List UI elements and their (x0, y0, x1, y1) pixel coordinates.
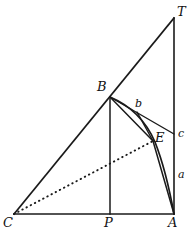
segment-hypotenuse-CT (14, 18, 174, 214)
vertex-label-P: P (104, 216, 113, 229)
figure-canvas (0, 0, 194, 235)
vertex-label-E: E (155, 131, 165, 144)
segment-label-b: b (135, 98, 142, 109)
vertex-label-T: T (177, 5, 186, 18)
segment-label-a: a (178, 169, 185, 180)
vertex-label-C: C (3, 216, 13, 229)
vertex-label-A: A (168, 216, 177, 229)
segment-label-c: c (178, 128, 184, 139)
geometry-figure: T B E C P A b c a (0, 0, 194, 235)
segment-dotted-CE (14, 141, 153, 214)
vertex-label-B: B (97, 80, 107, 93)
arc-BEA (110, 97, 174, 214)
segment-chord-EA (153, 141, 174, 214)
segment-chord-BE (110, 97, 153, 141)
